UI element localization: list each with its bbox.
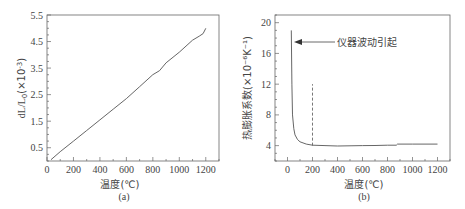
y-tick-label: 8 — [266, 109, 271, 120]
x-tick-label: 200 — [66, 164, 81, 175]
x-tick-label: 200 — [305, 164, 320, 175]
y-tick-label: 16 — [261, 48, 271, 59]
panel-b: 020040060080010001200 48121620 仪器波动引起 温度… — [241, 15, 450, 203]
x-tick-label: 600 — [119, 164, 134, 175]
y-tick-label: 20 — [261, 17, 271, 28]
data-line-a — [51, 28, 206, 159]
x-tick-label: 1000 — [169, 164, 189, 175]
annotation-arrow — [294, 39, 335, 45]
y-tick-label: 12 — [261, 79, 271, 90]
x-tick-label: 600 — [355, 164, 370, 175]
x-tick-label: 0 — [45, 164, 50, 175]
x-tick-label: 1000 — [403, 164, 423, 175]
x-tick-label: 1200 — [428, 164, 448, 175]
y-tick-label: 2.5 — [31, 89, 44, 100]
arrow-left-icon — [294, 39, 302, 45]
x-tick-label: 0 — [285, 164, 290, 175]
x-ticks-a: 020040060080010001200 — [45, 157, 220, 175]
x-tick-label: 800 — [145, 164, 160, 175]
y-axis-title-b: 热膨胀系数(×10⁻⁶K⁻¹) — [241, 36, 253, 140]
x-tick-label: 1200 — [196, 164, 216, 175]
y-tick-label: 1.5 — [31, 116, 44, 127]
y-tick-label: 4 — [266, 140, 271, 151]
y-tick-label: 3.5 — [31, 63, 44, 74]
y-ticks-a: 0.51.52.53.54.55.5 — [31, 10, 52, 162]
annotation-text: 仪器波动引起 — [337, 36, 397, 48]
x-tick-label: 400 — [330, 164, 345, 175]
panel-a: 020040060080010001200 0.51.52.53.54.55.5… — [16, 10, 219, 204]
x-tick-label: 800 — [380, 164, 395, 175]
x-ticks-b: 020040060080010001200 — [275, 157, 450, 175]
y-axis-title-a: dL/L0(×10-3) — [16, 58, 29, 118]
x-axis-title-b: 温度(℃) — [344, 178, 383, 190]
y-tick-label: 0.5 — [31, 142, 44, 153]
y-tick-label: 4.5 — [31, 36, 44, 47]
x-axis-title-a: 温度(℃) — [100, 178, 139, 190]
plot-frame-a — [47, 15, 219, 161]
panel-label-b: (b) — [358, 191, 370, 203]
x-tick-label: 400 — [92, 164, 107, 175]
figure: 020040060080010001200 0.51.52.53.54.55.5… — [0, 0, 465, 209]
y-ticks-b: 48121620 — [261, 15, 279, 161]
y-tick-label: 5.5 — [31, 10, 44, 21]
panel-label-a: (a) — [118, 191, 129, 203]
